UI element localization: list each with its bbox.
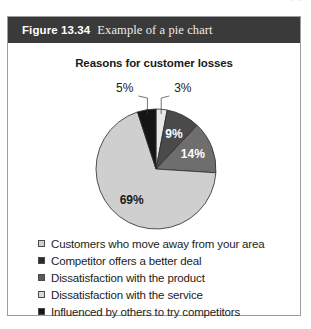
- figure-container: Figure 13.34 Example of a pie chart Reas…: [7, 16, 301, 316]
- legend-swatch-icon-0: [38, 240, 45, 247]
- legend-item-3[interactable]: Dissatisfaction with the service: [38, 286, 288, 303]
- legend-item-0[interactable]: Customers who move away from your area: [38, 235, 288, 252]
- figure-header-bar: Figure 13.34 Example of a pie chart: [8, 17, 300, 43]
- legend-label-3: Dissatisfaction with the service: [51, 289, 203, 301]
- pie-slice-label-4: 5%: [116, 81, 134, 95]
- legend-item-1[interactable]: Competitor offers a better deal: [38, 252, 288, 269]
- pie-chart-svg: 3%9%14%69%5%: [8, 72, 300, 232]
- figure-header-text: Figure 13.34 Example of a pie chart: [22, 17, 213, 43]
- page-top-cutoff-text: p g: [0, 0, 311, 11]
- chart-title: Reasons for customer losses: [8, 57, 300, 69]
- pie-slices: [96, 109, 216, 229]
- pie-chart: 3%9%14%69%5%: [8, 72, 300, 232]
- pie-slice-label-3: 69%: [120, 193, 144, 207]
- legend-label-0: Customers who move away from your area: [51, 238, 265, 250]
- legend-label-1: Competitor offers a better deal: [51, 255, 201, 267]
- cutoff-text: p g: [291, 0, 303, 1]
- pie-slice-label-2: 14%: [181, 147, 205, 161]
- legend-swatch-icon-3: [38, 291, 45, 298]
- legend-swatch-icon-4: [38, 308, 45, 315]
- legend-swatch-icon-1: [38, 257, 45, 264]
- legend-label-4: Influenced by others to try competitors: [51, 306, 240, 318]
- pie-slice-label-1: 9%: [165, 127, 183, 141]
- legend-swatch-icon-2: [38, 274, 45, 281]
- chart-legend: Customers who move away from your area C…: [38, 235, 288, 320]
- figure-caption: Example of a pie chart: [97, 23, 212, 38]
- figure-number: Figure 13.34: [22, 24, 90, 36]
- legend-item-4[interactable]: Influenced by others to try competitors: [38, 303, 288, 320]
- legend-item-2[interactable]: Dissatisfaction with the product: [38, 269, 288, 286]
- pie-slice-label-0: 3%: [174, 81, 192, 95]
- legend-label-2: Dissatisfaction with the product: [51, 272, 205, 284]
